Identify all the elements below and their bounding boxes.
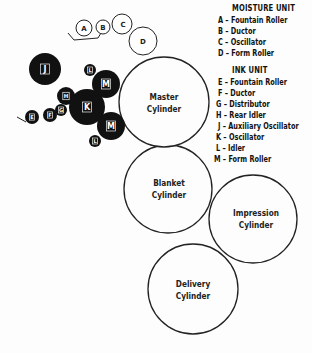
roller-e-label: E	[30, 114, 34, 120]
roller-f-label: F	[48, 112, 51, 118]
moisture-unit: A B C D	[68, 14, 157, 55]
blanket-cylinder-label-1: Blanket	[153, 177, 185, 188]
roller-l2: L	[89, 135, 101, 147]
roller-j: J	[29, 53, 61, 85]
roller-d: D	[129, 27, 157, 55]
roller-k-label: K	[84, 103, 91, 112]
roller-h-label: H	[64, 93, 69, 99]
impression-cylinder-label-2: Cylinder	[239, 219, 274, 230]
delivery-cylinder-label-1: Delivery	[176, 278, 211, 289]
impression-cylinder: Impression Cylinder	[209, 175, 297, 263]
blanket-cylinder: Blanket Cylinder	[124, 145, 212, 233]
master-cylinder-label-2: Cylinder	[147, 103, 182, 114]
master-cylinder: Master Cylinder	[119, 57, 209, 147]
delivery-cylinder-label-2: Cylinder	[176, 290, 211, 301]
roller-a: A	[76, 20, 92, 36]
roller-l1: L	[84, 64, 96, 76]
master-cylinder-label-1: Master	[150, 91, 180, 102]
offset-press-diagram: Delivery Cylinder Impression Cylinder Bl…	[0, 0, 312, 353]
roller-f: F	[43, 108, 57, 122]
roller-c-label: C	[120, 21, 125, 29]
roller-m2-label: M	[107, 122, 115, 131]
roller-m1-label: M	[102, 80, 110, 89]
roller-d-label: D	[140, 38, 146, 46]
roller-j-label: J	[43, 65, 47, 74]
roller-g-label: G	[59, 107, 63, 113]
ink-unit: JLMHKMLGFE	[17, 53, 125, 147]
roller-c: C	[112, 14, 132, 34]
roller-b: B	[96, 20, 110, 34]
roller-m2: M	[97, 112, 125, 140]
roller-a-label: A	[81, 25, 87, 33]
impression-cylinder-label-1: Impression	[233, 207, 279, 218]
ink-fountain-blade	[17, 117, 26, 122]
delivery-cylinder: Delivery Cylinder	[148, 244, 238, 334]
roller-e: E	[25, 110, 39, 124]
roller-b-label: B	[100, 24, 105, 32]
blanket-cylinder-label-2: Cylinder	[152, 189, 187, 200]
